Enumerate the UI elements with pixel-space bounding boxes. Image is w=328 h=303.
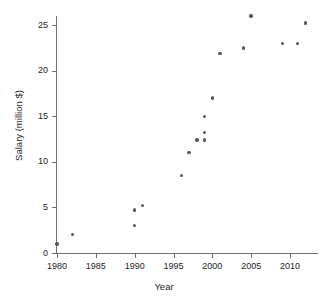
data-point <box>133 224 136 227</box>
x-tick-label: 1980 <box>42 262 72 271</box>
data-point <box>249 14 252 17</box>
x-tick-mark <box>96 254 97 258</box>
data-point <box>296 42 299 45</box>
y-axis-title: Salary (million $) <box>13 46 24 206</box>
plot-area: 0510152025 1980198519901995200020052010 … <box>0 0 328 303</box>
x-tick-mark <box>212 254 213 258</box>
data-point <box>133 208 136 211</box>
data-point <box>281 42 284 45</box>
data-point <box>71 233 74 236</box>
data-point <box>211 96 214 99</box>
y-tick-mark <box>52 253 56 254</box>
scatter-plot-figure: 0510152025 1980198519901995200020052010 … <box>0 0 328 303</box>
data-point <box>203 138 206 141</box>
y-axis-line <box>56 16 57 254</box>
x-tick-label: 2000 <box>197 262 227 271</box>
data-point <box>242 46 245 49</box>
y-tick-mark <box>52 71 56 72</box>
y-tick-label: 0 <box>18 249 48 258</box>
x-axis-title: Year <box>0 281 328 292</box>
x-tick-label: 1990 <box>120 262 150 271</box>
x-tick-label: 2010 <box>275 262 305 271</box>
x-tick-mark <box>174 254 175 258</box>
x-tick-mark <box>57 254 58 258</box>
y-tick-mark <box>52 116 56 117</box>
y-tick-label: 25 <box>18 21 48 30</box>
x-tick-label: 1995 <box>159 262 189 271</box>
data-point <box>304 21 307 24</box>
x-tick-mark <box>290 254 291 258</box>
data-point <box>195 138 198 141</box>
data-point <box>55 242 58 245</box>
x-tick-label: 1985 <box>81 262 111 271</box>
data-point <box>180 174 183 177</box>
x-tick-label: 2005 <box>236 262 266 271</box>
y-tick-mark <box>52 25 56 26</box>
data-point <box>218 52 221 55</box>
data-point <box>203 131 206 134</box>
data-point <box>203 115 206 118</box>
y-tick-mark <box>52 207 56 208</box>
data-point <box>141 204 144 207</box>
data-point <box>187 151 190 154</box>
x-tick-mark <box>251 254 252 258</box>
x-tick-mark <box>135 254 136 258</box>
y-tick-mark <box>52 162 56 163</box>
